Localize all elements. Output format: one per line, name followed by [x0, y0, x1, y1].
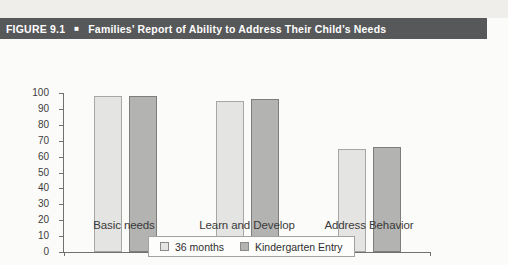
y-axis-tick-40	[59, 188, 64, 189]
y-axis-tick-label-70: 70	[9, 135, 49, 147]
x-axis-tick	[430, 252, 431, 256]
y-axis-tick-label-20: 20	[9, 214, 49, 226]
square-bullet-icon: ■	[74, 25, 79, 33]
legend-swatch-kindergarten-entry	[240, 242, 249, 251]
legend-item-36-months: 36 months	[160, 241, 224, 253]
y-axis-tick-60	[59, 157, 64, 158]
chart-legend: 36 months Kindergarten Entry	[148, 236, 355, 257]
legend-label-36-months: 36 months	[175, 241, 224, 253]
legend-swatch-36-months	[160, 242, 169, 251]
y-axis-tick-50	[59, 173, 64, 174]
y-axis-tick-label-80: 80	[9, 119, 49, 131]
y-axis-tick-label-40: 40	[9, 182, 49, 194]
bar-kindergarten-entry-address-behavior	[373, 147, 401, 252]
page-margin	[0, 0, 508, 18]
category-label-learn-and-develop: Learn and Develop	[177, 219, 317, 231]
legend-label-kindergarten-entry: Kindergarten Entry	[255, 241, 343, 253]
y-axis-tick-90	[59, 109, 64, 110]
y-axis-tick-30	[59, 204, 64, 205]
y-axis-tick-label-0: 0	[9, 246, 49, 258]
legend-item-kindergarten-entry: Kindergarten Entry	[240, 241, 343, 253]
figure-header: FIGURE 9.1 ■ Families’ Report of Ability…	[0, 18, 487, 39]
figure-title: Families’ Report of Ability to Address T…	[88, 23, 386, 35]
y-axis-tick-label-60: 60	[9, 151, 49, 163]
y-axis-tick-label-100: 100	[9, 87, 49, 99]
figure-number: FIGURE 9.1	[6, 23, 65, 35]
bar-chart: 1009080706050403020100 Basic needs Learn…	[0, 39, 508, 265]
y-axis-tick-label-50: 50	[9, 167, 49, 179]
y-axis-tick-10	[59, 236, 64, 237]
y-axis-tick-70	[59, 141, 64, 142]
y-axis-labels: 1009080706050403020100	[0, 93, 58, 252]
category-label-address-behavior: Address Behavior	[299, 219, 439, 231]
y-axis-tick-label-90: 90	[9, 103, 49, 115]
y-axis-tick-80	[59, 125, 64, 126]
y-axis-tick-label-10: 10	[9, 230, 49, 242]
y-axis-tick-100	[59, 93, 64, 94]
y-axis-tick-label-30: 30	[9, 198, 49, 210]
x-axis-tick	[64, 252, 65, 256]
category-label-basic-needs: Basic needs	[54, 219, 194, 231]
figure-panel: FIGURE 9.1 ■ Families’ Report of Ability…	[0, 0, 508, 265]
